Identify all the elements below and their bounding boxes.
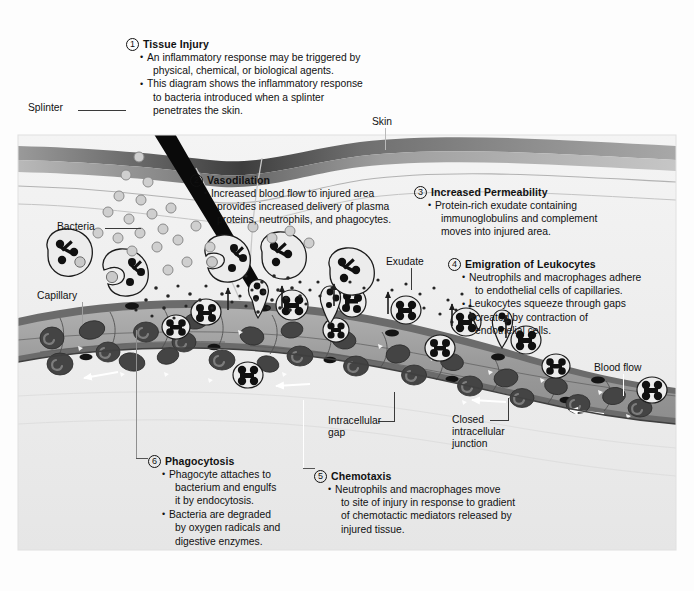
step-4-line-2: to endothelial cells of capillaries. [462, 285, 641, 297]
step-2-line-1: Increased blood flow to injured area [204, 188, 391, 200]
callout-step-3: 3 Increased Permeability Protein-rich ex… [414, 186, 597, 239]
step-6-line-5: by oxygen radicals and [162, 522, 280, 534]
label-intracellular-gap-line2: gap [328, 427, 345, 439]
step-number-2: 2 [190, 174, 203, 187]
step-5-bullets: Neutrophils and macrophages move to site… [328, 484, 515, 537]
step-2-bullets: Increased blood flow to injured area pro… [204, 188, 391, 227]
label-intracellular-gap-line1: Intracellular [328, 415, 381, 427]
label-closed-junction-line3: junction [452, 438, 488, 450]
label-splinter: Splinter [28, 102, 63, 114]
label-closed-junction-line1: Closed [452, 414, 484, 426]
step-2-heading: 2 Vasodilation [190, 174, 391, 187]
step-3-heading: 3 Increased Permeability [414, 186, 597, 199]
step-number-6: 6 [148, 455, 161, 468]
step-6-line-3: it by endocytosis. [162, 495, 280, 507]
step-5-title: Chemotaxis [331, 470, 392, 482]
step-1-bullets: An inflammatory response may be triggere… [140, 52, 363, 118]
step-1-line-1: An inflammatory response may be triggere… [140, 52, 363, 64]
label-exudate: Exudate [386, 256, 424, 268]
callout-step-2: 2 Vasodilation Increased blood flow to i… [190, 174, 391, 227]
label-skin: Skin [372, 116, 392, 128]
step-number-5: 5 [314, 470, 327, 483]
callout-step-6: 6 Phagocytosis Phagocyte attaches to bac… [148, 455, 280, 548]
step-6-line-6: digestive enzymes. [162, 536, 280, 548]
step-2-line-2: provides increased delivery of plasma [204, 201, 391, 213]
leader-step6 [136, 330, 137, 458]
step-5-line-3: of chemotactic mediators released by [328, 510, 515, 522]
step-5-line-4: injured tissue. [328, 524, 515, 536]
leader-capillary [82, 302, 83, 324]
step-1-line-4: to bacteria introduced when a splinter [140, 92, 363, 104]
step-number-3: 3 [414, 186, 427, 199]
step-6-title: Phagocytosis [165, 455, 234, 467]
step-4-bullets: Neutrophils and macrophages adhere to en… [462, 272, 641, 338]
step-3-line-1: Protein-rich exudate containing [428, 200, 597, 212]
leader-splinter [78, 110, 126, 111]
step-6-line-4: Bacteria are degraded [162, 509, 280, 521]
step-3-line-2: immunoglobulins and complement [428, 213, 597, 225]
leader-step5 [303, 400, 304, 468]
step-5-heading: 5 Chemotaxis [314, 470, 515, 483]
step-3-title: Increased Permeability [431, 186, 548, 198]
leader-step6-h [136, 458, 148, 459]
label-bacteria: Bacteria [57, 221, 95, 233]
step-1-line-2: physical, chemical, or biological agents… [140, 65, 363, 77]
leader-intracellular-gap-v [394, 392, 395, 422]
leader-closed-junction [490, 420, 508, 421]
step-4-line-1: Neutrophils and macrophages adhere [462, 272, 641, 284]
step-4-line-3: Leukocytes squeeze through gaps [462, 298, 641, 310]
step-2-line-3: proteins, neutrophils, and phagocytes. [204, 214, 391, 226]
leader-closed-junction-v [508, 398, 509, 421]
step-4-line-5: endothelial cells. [462, 325, 641, 337]
figure-canvas: Splinter Skin Bacteria Capillary Exudate… [0, 0, 694, 591]
step-4-line-4: created by contraction of [462, 312, 641, 324]
leader-bacteria [105, 228, 141, 229]
step-6-line-2: bacterium and engulfs [162, 482, 280, 494]
leader-step5-h [303, 468, 315, 469]
leader-blood-flow [623, 374, 624, 396]
step-6-line-1: Phagocyte attaches to [162, 469, 280, 481]
label-blood-flow: Blood flow [594, 362, 642, 374]
step-2-title: Vasodilation [207, 174, 270, 186]
callout-step-4: 4 Emigration of Leukocytes Neutrophils a… [448, 258, 641, 338]
step-5-line-1: Neutrophils and macrophages move [328, 484, 515, 496]
step-1-line-5: penetrates the skin. [140, 105, 363, 117]
step-4-heading: 4 Emigration of Leukocytes [448, 258, 641, 271]
step-6-bullets: Phagocyte attaches to bacterium and engu… [162, 469, 280, 548]
step-6-heading: 6 Phagocytosis [148, 455, 280, 468]
leader-skin [385, 128, 386, 150]
step-5-line-2: to site of injury in response to gradien… [328, 497, 515, 509]
step-3-line-3: moves into injured area. [428, 226, 597, 238]
callout-step-1: 1 Tissue Injury An inflammatory response… [126, 38, 363, 118]
step-3-bullets: Protein-rich exudate containing immunogl… [428, 200, 597, 239]
step-number-1: 1 [126, 38, 139, 51]
callout-step-5: 5 Chemotaxis Neutrophils and macrophages… [314, 470, 515, 536]
leader-exudate [411, 268, 412, 290]
label-capillary: Capillary [37, 290, 77, 302]
step-1-heading: 1 Tissue Injury [126, 38, 363, 51]
step-1-title: Tissue Injury [143, 38, 209, 50]
step-number-4: 4 [448, 258, 461, 271]
label-closed-junction-line2: intracellular [452, 426, 505, 438]
figure-credit [352, 578, 690, 587]
step-1-line-3: This diagram shows the inflammatory resp… [140, 78, 363, 90]
step-4-title: Emigration of Leukocytes [465, 258, 596, 270]
